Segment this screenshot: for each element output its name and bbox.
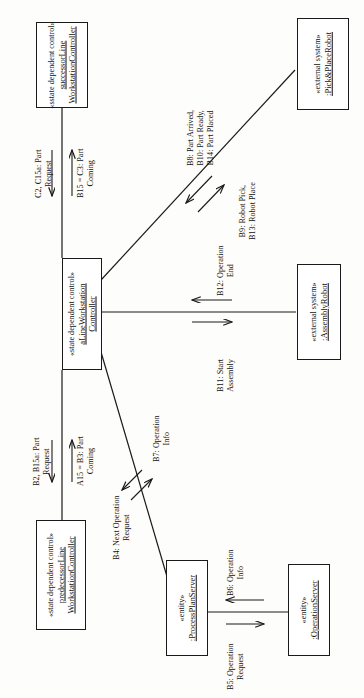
message-b2-b15a-part-request: B2, B15a: Part Request (32, 438, 52, 486)
node-assembly-robot[interactable]: «external system» :AssemblyRobot (297, 264, 341, 360)
node-stereotype: «external system» (309, 282, 319, 341)
message-line1: B8: Part Arrived, (186, 110, 196, 166)
node-label: «entity» :ProcessPlanServer (177, 575, 197, 641)
message-line1: B6: Operation (226, 549, 236, 596)
message-line2: Request (44, 150, 54, 198)
message-c2-c15a-part-request: C2, C15a: Part Request (34, 150, 54, 198)
node-label: «external system» :Pick&PlaceRobot (313, 32, 333, 96)
message-line1: B4: Next Operation (112, 495, 122, 560)
message-b12-operation-end: B12: Operation End (216, 245, 236, 296)
message-line2: End (226, 245, 236, 296)
node-predecessor-line-workstation-controller[interactable]: «state dependent control» predecessorLin… (36, 520, 86, 630)
arrow-b7-operation-info (131, 479, 152, 500)
arrow-b9-b13 (198, 185, 224, 212)
node-stereotype: «state dependent control» (46, 533, 56, 617)
node-name-line2: WorkstationController (67, 21, 77, 108)
node-label: «sstate dependent control» successorLine… (47, 21, 78, 108)
node-a-line-workstation-controller[interactable]: «state dependent control» aLineWorkstati… (62, 258, 102, 370)
node-name-line1: successorLine (57, 21, 67, 108)
message-line2: Info (236, 549, 246, 596)
node-process-plan-server[interactable]: «entity» :ProcessPlanServer (166, 560, 208, 656)
message-line1: B5: Operation (226, 643, 236, 690)
message-line2: Assembly (226, 359, 236, 392)
link-aline-to-pickplace (101, 70, 295, 280)
message-line1: B12: Operation (216, 245, 226, 296)
node-stereotype: «sstate dependent control» (47, 21, 57, 108)
message-line1: B9: Robot Pick, (238, 182, 248, 240)
node-label: «state dependent control» predecessorLin… (46, 533, 77, 617)
node-pick-and-place-robot[interactable]: «external system» :Pick&PlaceRobot (297, 18, 349, 110)
node-name-line1: :AssemblyRobot (319, 282, 329, 341)
node-operation-server[interactable]: «entity» :OperationServer (288, 564, 330, 656)
message-b4-next-operation-request: B4: Next Operation Request (112, 495, 132, 560)
message-line1: B11: Start (216, 359, 226, 392)
node-name-line1: aLineWorkstation (77, 272, 87, 356)
node-name-line2: WorkstationController (66, 533, 76, 617)
node-stereotype: «entity» (177, 575, 187, 641)
node-name-line1: :OperationServer (309, 580, 319, 639)
message-line1: C2, C15a: Part (34, 150, 44, 198)
diagram-canvas: «sstate dependent control» successorLine… (0, 0, 364, 698)
arrow-b8-b10-b14 (186, 176, 212, 203)
message-b15-c3-part-coming: B15 = C3: Part Coming (76, 149, 96, 198)
message-line2: B13: Robot Place (248, 182, 258, 240)
message-b6-operation-info: B6: Operation Info (226, 549, 246, 596)
node-label: «entity» :OperationServer (299, 580, 319, 639)
message-line3: B14: Part Placed (206, 110, 216, 166)
message-line2: B10: Part Ready, (196, 110, 206, 166)
message-line2: Coming (86, 149, 96, 198)
message-line2: Request (122, 495, 132, 560)
node-name-line1: :Pick&PlaceRobot (323, 32, 333, 96)
node-stereotype: «entity» (299, 580, 309, 639)
message-line2: Request (236, 643, 246, 690)
message-b11-start-assembly: B11: Start Assembly (216, 359, 236, 392)
node-name-line1: :ProcessPlanServer (187, 575, 197, 641)
message-b9-b13-robot: B9: Robot Pick, B13: Robot Place (238, 182, 258, 240)
message-a15-b3-part-coming: A15 = B3: Part Coming (76, 436, 96, 486)
node-name-line1: predecessorLine (56, 533, 66, 617)
message-line1: B7: Operation (152, 415, 162, 462)
message-line2: Info (162, 415, 172, 462)
message-b8-b10-b14: B8: Part Arrived, B10: Part Ready, B14: … (186, 110, 216, 166)
message-line1: A15 = B3: Part (76, 436, 86, 486)
message-line1: B2, B15a: Part (32, 438, 42, 486)
node-label: «external system» :AssemblyRobot (309, 282, 329, 341)
node-stereotype: «state dependent control» (67, 272, 77, 356)
message-line2: Request (42, 438, 52, 486)
message-b7-operation-info: B7: Operation Info (152, 415, 172, 462)
node-name-line2: Controller (87, 272, 97, 356)
message-b5-operation-request: B5: Operation Request (226, 643, 246, 690)
message-line2: Coming (86, 436, 96, 486)
node-label: «state dependent control» aLineWorkstati… (67, 272, 98, 356)
message-line1: B15 = C3: Part (76, 149, 86, 198)
node-stereotype: «external system» (313, 32, 323, 96)
node-successor-line-workstation-controller[interactable]: «sstate dependent control» successorLine… (36, 22, 88, 108)
